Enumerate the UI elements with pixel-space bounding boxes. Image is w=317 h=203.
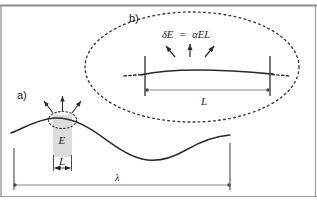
energy-formula: δE = αEL <box>162 29 210 40</box>
wavelength-label: λ <box>114 172 120 183</box>
formula-equals: = <box>180 29 186 40</box>
figure-container: a) E L λ <box>0 0 317 203</box>
panel-b-label: b) <box>129 12 139 24</box>
physics-figure: a) E L λ <box>0 0 317 203</box>
field-strength-label: E <box>58 134 66 146</box>
l-label-a: L <box>58 155 65 167</box>
l-label-b: L <box>200 95 207 107</box>
figure-background <box>0 0 317 203</box>
formula-delta-e: δE <box>162 29 174 40</box>
panel-a-label: a) <box>17 89 27 101</box>
formula-alpha-e-l: αEL <box>192 29 210 40</box>
